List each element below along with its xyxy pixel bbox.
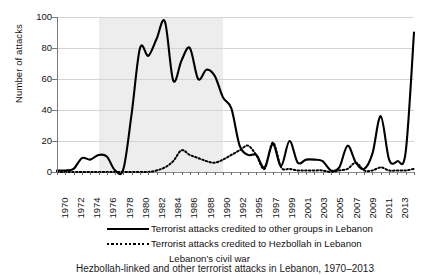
x-tick-label: 1992 <box>238 197 248 218</box>
legend-item-other-groups: Terrorist attacks credited to other grou… <box>105 221 428 236</box>
x-tick-label: 2011 <box>384 198 394 218</box>
x-tick-label: 2001 <box>303 197 313 218</box>
y-tick-label: 80 <box>22 43 52 53</box>
legend-item-hezbollah: Terrorist attacks credited to Hezbollah … <box>105 236 428 251</box>
x-tick-label: 2005 <box>335 197 345 218</box>
x-tick-label: 1986 <box>189 197 199 218</box>
legend-label-hezbollah: Terrorist attacks credited to Hezbollah … <box>151 238 362 249</box>
x-tick-label: 1990 <box>221 197 231 218</box>
figure-caption: Hezbollah-linked and other terrorist att… <box>76 263 428 275</box>
x-tick-label: 1978 <box>124 197 134 218</box>
y-tickmark <box>52 48 57 49</box>
legend-dotted-line-icon <box>105 239 151 249</box>
legend-label-other-groups: Terrorist attacks credited to other grou… <box>151 223 373 234</box>
y-tickmark <box>52 17 57 18</box>
legend-solid-line-icon <box>105 224 151 234</box>
x-tick-label: 2003 <box>319 197 329 218</box>
y-axis-line <box>57 17 58 172</box>
x-tick-label: 2007 <box>351 197 361 218</box>
x-axis-tick-labels: 1970197219741976197819801982198419861988… <box>57 174 414 218</box>
x-tick-label: 1984 <box>173 197 183 218</box>
y-axis-tick-labels: 020406080100 <box>22 0 52 186</box>
x-tick-label: 1980 <box>140 197 150 218</box>
y-tickmark <box>52 110 57 111</box>
x-tick-label: 1982 <box>156 197 166 218</box>
y-tickmark <box>52 79 57 80</box>
y-tick-label: 100 <box>22 12 52 22</box>
x-tick-label: 1970 <box>59 197 69 218</box>
figure: Number of attacks 020406080100 197019721… <box>0 0 428 275</box>
chart-legend: Terrorist attacks credited to other grou… <box>105 221 428 266</box>
x-tickmark <box>414 172 415 175</box>
y-tick-label: 20 <box>22 136 52 146</box>
series-line-other-groups <box>57 20 414 174</box>
x-tick-label: 1997 <box>270 197 280 218</box>
y-tick-label: 60 <box>22 74 52 84</box>
x-tick-label: 2013 <box>400 197 410 218</box>
x-tick-label: 1974 <box>92 197 102 218</box>
plot-canvas <box>57 17 414 172</box>
series-line-hezbollah <box>57 143 414 173</box>
x-tick-label: 1976 <box>108 197 118 218</box>
x-tick-label: 1995 <box>254 197 264 218</box>
series-lines <box>57 17 414 172</box>
y-tick-label: 0 <box>22 167 52 177</box>
chart-plot-area: Number of attacks 020406080100 197019721… <box>0 0 428 186</box>
y-tick-label: 40 <box>22 105 52 115</box>
x-tick-label: 1988 <box>205 197 215 218</box>
x-tick-label: 2009 <box>367 197 377 218</box>
y-tickmark <box>52 141 57 142</box>
x-tick-label: 1999 <box>286 197 296 218</box>
x-tick-label: 1972 <box>75 197 85 218</box>
